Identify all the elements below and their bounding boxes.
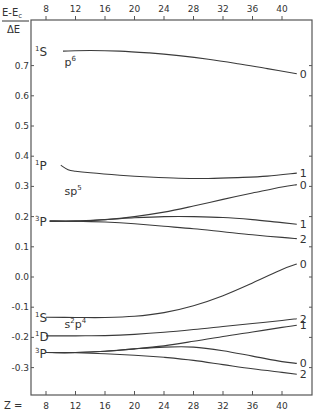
- curve-line: [50, 185, 297, 222]
- term-label: 1S: [35, 311, 47, 325]
- curve-line: [46, 264, 297, 318]
- plot-frame: [31, 20, 312, 395]
- curve-line: [61, 165, 297, 178]
- x-tick-label-top: 32: [217, 4, 228, 14]
- x-tick-label-top: 8: [43, 4, 49, 14]
- y-tick-label: 0.3: [15, 181, 29, 191]
- curves: [46, 51, 297, 375]
- x-tick-label-bottom: 24: [158, 401, 170, 411]
- ylabel-numerator-sub: c: [18, 12, 22, 20]
- j-label: 1: [300, 218, 307, 231]
- x-tick-label-top: 24: [158, 4, 170, 14]
- curve-line: [63, 51, 297, 74]
- j-label: 2: [300, 368, 307, 381]
- configuration-label: p6: [64, 55, 76, 69]
- j-label: 1: [300, 319, 307, 332]
- x-tick-label-top: 40: [276, 4, 288, 14]
- axis-ticks: 88121216162020242428283232363640400.70.6…: [11, 4, 312, 411]
- j-label: 0: [300, 68, 307, 81]
- x-tick-label-bottom: 12: [70, 401, 81, 411]
- term-label: 1D: [35, 330, 49, 344]
- x-tick-label-top: 36: [247, 4, 259, 14]
- x-axis-label: Z =: [4, 400, 22, 411]
- y-tick-label: 0.7: [15, 61, 29, 71]
- curve-line: [46, 347, 297, 364]
- x-tick-label-top: 28: [188, 4, 200, 14]
- j-label: 2: [300, 233, 307, 246]
- annotations: 01012021021S1P3P1S1D3Pp6sp5s2p4: [35, 45, 307, 381]
- svg-text:E-Ec: E-Ec: [2, 7, 22, 20]
- energy-level-chart: 88121216162020242428283232363640400.70.6…: [0, 0, 324, 417]
- y-tick-label: 0.1: [15, 242, 29, 252]
- curve-line: [46, 325, 297, 352]
- x-tick-label-bottom: 8: [43, 401, 49, 411]
- j-label: 0: [300, 179, 307, 192]
- curve-line: [50, 221, 297, 239]
- x-tick-label-bottom: 28: [188, 401, 200, 411]
- y-tick-label: -0.3: [11, 363, 29, 373]
- term-label: 3P: [35, 347, 47, 361]
- term-label: 3P: [35, 215, 47, 229]
- y-tick-label: 0.6: [15, 91, 30, 101]
- x-tick-label-top: 12: [70, 4, 81, 14]
- y-tick-label: 0.2: [15, 212, 29, 222]
- y-tick-label: -0.1: [11, 302, 29, 312]
- y-tick-label: -0.2: [11, 332, 29, 342]
- x-tick-label-top: 20: [129, 4, 141, 14]
- x-tick-label-top: 16: [99, 4, 111, 14]
- curve-line: [50, 216, 297, 224]
- j-label: 0: [300, 258, 307, 271]
- x-tick-label-bottom: 16: [99, 401, 111, 411]
- x-tick-label-bottom: 40: [276, 401, 288, 411]
- ylabel-denominator: ΔE: [7, 24, 20, 35]
- y-tick-label: 0.5: [15, 121, 29, 131]
- x-tick-label-bottom: 36: [247, 401, 259, 411]
- term-label: 1P: [35, 159, 47, 173]
- y-tick-label: 0.0: [15, 272, 30, 282]
- x-tick-label-bottom: 32: [217, 401, 228, 411]
- x-tick-label-bottom: 20: [129, 401, 141, 411]
- ylabel-numerator: E-E: [2, 7, 18, 18]
- term-label: 1S: [35, 45, 47, 59]
- y-tick-label: 0.4: [15, 151, 30, 161]
- y-axis-label: E-Ec ΔE: [2, 7, 29, 35]
- configuration-label: sp5: [64, 184, 81, 198]
- configuration-label: s2p4: [64, 317, 86, 331]
- curve-line: [46, 353, 297, 375]
